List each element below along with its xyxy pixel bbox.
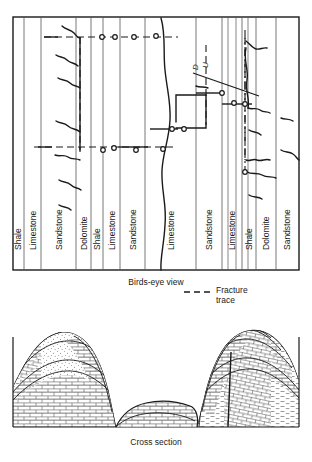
sinkhole bbox=[232, 101, 237, 106]
unit-label: Sandstone bbox=[282, 209, 292, 250]
sinkhole bbox=[112, 146, 117, 151]
sinkhole bbox=[161, 147, 166, 152]
fault-up-label: U bbox=[201, 62, 210, 68]
fault-down-label: D bbox=[191, 64, 200, 70]
sinkhole bbox=[243, 102, 248, 107]
sinkhole bbox=[132, 35, 137, 40]
cross-section-panel bbox=[13, 325, 305, 435]
fracture-trace-legend-label-line1: Fracture bbox=[216, 285, 312, 295]
legend-label-wrap: Fracture trace bbox=[216, 285, 312, 305]
unit-label: Shale bbox=[92, 228, 102, 250]
sinkhole bbox=[243, 170, 248, 175]
unit-label: Limestone bbox=[166, 211, 176, 250]
sinkhole bbox=[170, 127, 175, 132]
unit-label: Dolomite bbox=[79, 216, 89, 250]
left-hill bbox=[13, 325, 135, 430]
figure-svg: D U Shale Limestone Sandstone Dolomite bbox=[0, 0, 312, 462]
unit-label: Shale bbox=[13, 228, 23, 250]
sinkhole bbox=[101, 148, 106, 153]
cross-section-caption: Cross section bbox=[0, 437, 312, 447]
sinkhole bbox=[220, 91, 225, 96]
unit-label: Sandstone bbox=[54, 209, 64, 250]
fracture-trace-legend-label-line2: trace bbox=[216, 295, 312, 305]
sinkhole bbox=[154, 34, 159, 39]
unit-label: Limestone bbox=[107, 211, 117, 250]
unit-label: Sandstone bbox=[204, 209, 214, 250]
unit-label: Shale bbox=[244, 228, 254, 250]
unit-label: Sandstone bbox=[128, 209, 138, 250]
unit-label: Dolomite bbox=[261, 216, 271, 250]
right-hill bbox=[180, 325, 305, 430]
sinkhole bbox=[134, 148, 139, 153]
sinkhole bbox=[100, 35, 105, 40]
birds-eye-panel: D U Shale Limestone Sandstone Dolomite bbox=[13, 17, 299, 270]
unit-label: Limestone bbox=[227, 211, 237, 250]
unit-label: Limestone bbox=[28, 211, 38, 250]
sinkhole bbox=[113, 35, 118, 40]
sinkhole bbox=[182, 127, 187, 132]
geologic-figure: D U Shale Limestone Sandstone Dolomite bbox=[0, 0, 312, 462]
